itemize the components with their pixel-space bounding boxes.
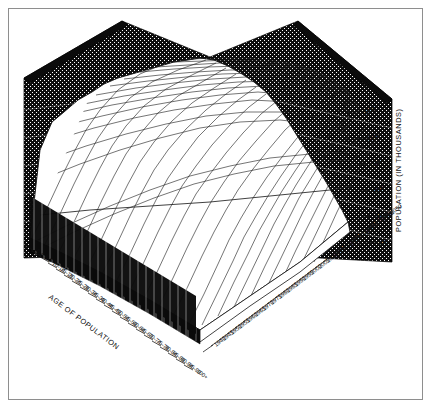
plot-area: 24K 20K 16K 12K 8K 4K POPULATION (IN THO… bbox=[24, 21, 404, 380]
chart-page: 24K 20K 16K 12K 8K 4K POPULATION (IN THO… bbox=[0, 0, 431, 408]
surface-plot-canvas: 24K 20K 16K 12K 8K 4K POPULATION (IN THO… bbox=[0, 0, 431, 408]
y-tick-label-20: 100+ bbox=[195, 368, 209, 380]
